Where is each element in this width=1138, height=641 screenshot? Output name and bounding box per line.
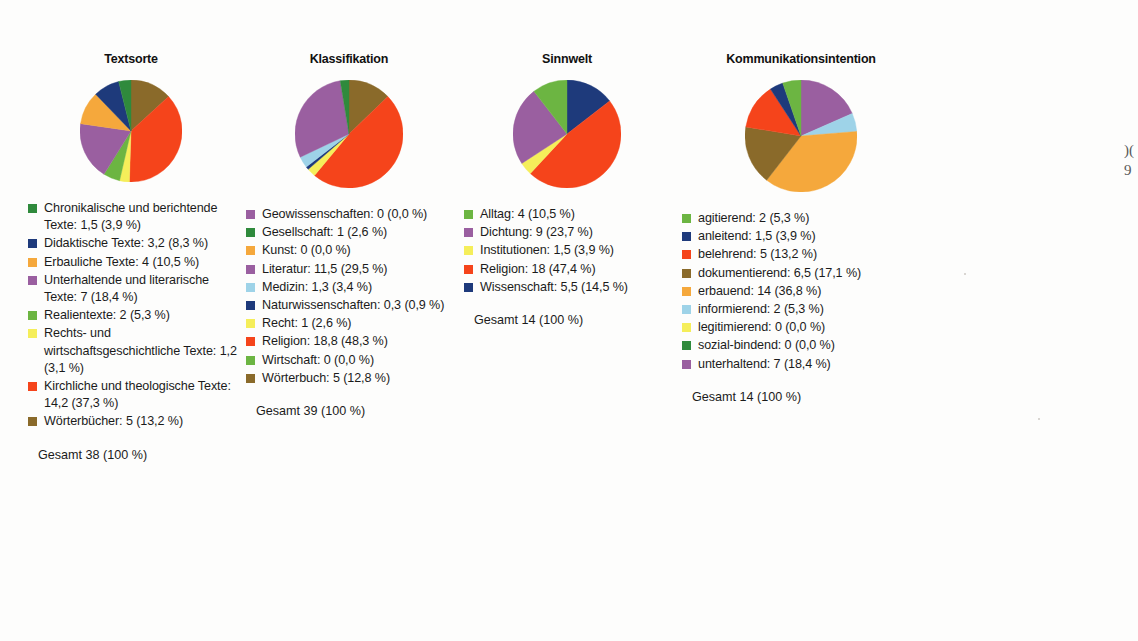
legend-item: dokumentierend: 6,5 (17,1 %)	[682, 265, 926, 282]
legend-color-swatch	[246, 319, 255, 328]
legend-item: Wörterbuch: 5 (12,8 %)	[246, 370, 458, 387]
pie-svg	[745, 80, 857, 192]
legend-item: Naturwissenschaften: 0,3 (0,9 %)	[246, 297, 458, 314]
chart-title: Textsorte	[22, 52, 240, 66]
legend-color-swatch	[682, 287, 691, 296]
legend-item: anleitend: 1,5 (3,9 %)	[682, 228, 926, 245]
margin-note-line-2: 9	[1124, 160, 1134, 180]
pie-svg	[295, 80, 403, 188]
legend-label: Literatur: 11,5 (29,5 %)	[262, 261, 387, 278]
legend-item: Recht: 1 (2,6 %)	[246, 315, 458, 332]
margin-note: )( 9	[1124, 140, 1134, 180]
legend-item: Religion: 18,8 (48,3 %)	[246, 333, 458, 350]
pie-panel-klassifikation: Klassifikation Geowissenschaften: 0 (0,0…	[240, 0, 458, 420]
pie-svg	[80, 80, 182, 182]
legend-color-swatch	[682, 323, 691, 332]
legend-label: Erbauliche Texte: 4 (10,5 %)	[44, 254, 199, 271]
legend-color-swatch	[464, 228, 473, 237]
scan-speck	[964, 273, 966, 275]
legend-label: Rechts- und wirtschaftsgeschichtliche Te…	[44, 325, 240, 377]
legend-label: Geowissenschaften: 0 (0,0 %)	[262, 206, 427, 223]
legend-item: Realientexte: 2 (5,3 %)	[28, 307, 240, 324]
pie-panel-kommunikationsintention: Kommunikationsintention agitierend: 2 (5…	[676, 0, 926, 406]
pie-svg	[513, 80, 621, 188]
legend-label: agitierend: 2 (5,3 %)	[698, 210, 809, 227]
legend-label: Institutionen: 1,5 (3,9 %)	[480, 242, 614, 259]
legend-item: Rechts- und wirtschaftsgeschichtliche Te…	[28, 325, 240, 377]
legend-label: Gesellschaft: 1 (2,6 %)	[262, 224, 387, 241]
pie-chart-sinnwelt	[458, 80, 676, 188]
legend-item: sozial-bindend: 0 (0,0 %)	[682, 337, 926, 354]
legend-label: Dichtung: 9 (23,7 %)	[480, 224, 593, 241]
pie-panel-sinnwelt: Sinnwelt Alltag: 4 (10,5 %)Dichtung: 9 (…	[458, 0, 676, 329]
legend-item: Institutionen: 1,5 (3,9 %)	[464, 242, 676, 259]
legend-color-swatch	[28, 417, 37, 426]
legend-label: Kirchliche und theologische Texte: 14,2 …	[44, 378, 240, 412]
legend-color-swatch	[246, 374, 255, 383]
legend-label: Alltag: 4 (10,5 %)	[480, 206, 575, 223]
pie-chart-textsorte	[22, 80, 240, 182]
legend-color-swatch	[28, 311, 37, 320]
legend-item: Wirtschaft: 0 (0,0 %)	[246, 352, 458, 369]
legend-label: Didaktische Texte: 3,2 (8,3 %)	[44, 235, 208, 252]
legend-label: Wörterbücher: 5 (13,2 %)	[44, 413, 183, 430]
legend-item: Dichtung: 9 (23,7 %)	[464, 224, 676, 241]
legend-color-swatch	[464, 210, 473, 219]
legend-label: informierend: 2 (5,3 %)	[698, 301, 824, 318]
legend-item: Gesellschaft: 1 (2,6 %)	[246, 224, 458, 241]
total-label: Gesamt 38 (100 %)	[38, 447, 240, 464]
legend-item: Kunst: 0 (0,0 %)	[246, 242, 458, 259]
legend-item: Wissenschaft: 5,5 (14,5 %)	[464, 279, 676, 296]
legend-label: belehrend: 5 (13,2 %)	[698, 246, 817, 263]
scan-speck	[1038, 418, 1040, 420]
legend-color-swatch	[28, 204, 37, 213]
pie-chart-klassifikation	[240, 80, 458, 188]
legend-label: Religion: 18,8 (48,3 %)	[262, 333, 388, 350]
legend-item: Alltag: 4 (10,5 %)	[464, 206, 676, 223]
legend-color-swatch	[464, 265, 473, 274]
legend-item: legitimierend: 0 (0,0 %)	[682, 319, 926, 336]
legend-label: anleitend: 1,5 (3,9 %)	[698, 228, 816, 245]
legend-item: erbauend: 14 (36,8 %)	[682, 283, 926, 300]
legend-color-swatch	[28, 329, 37, 338]
legend-label: Kunst: 0 (0,0 %)	[262, 242, 351, 259]
legend-color-swatch	[464, 283, 473, 292]
legend-kommunikationsintention: agitierend: 2 (5,3 %)anleitend: 1,5 (3,9…	[676, 210, 926, 373]
legend-label: dokumentierend: 6,5 (17,1 %)	[698, 265, 861, 282]
legend-color-swatch	[28, 239, 37, 248]
legend-item: informierend: 2 (5,3 %)	[682, 301, 926, 318]
legend-label: Wissenschaft: 5,5 (14,5 %)	[480, 279, 628, 296]
legend-label: unterhaltend: 7 (18,4 %)	[698, 356, 831, 373]
legend-color-swatch	[246, 337, 255, 346]
legend-color-swatch	[28, 276, 37, 285]
legend-color-swatch	[464, 246, 473, 255]
pie-panel-textsorte: Textsorte Chronikalische und berichtende…	[22, 0, 240, 464]
legend-item: Didaktische Texte: 3,2 (8,3 %)	[28, 235, 240, 252]
legend-item: Chronikalische und berichtende Texte: 1,…	[28, 200, 240, 234]
legend-item: Erbauliche Texte: 4 (10,5 %)	[28, 254, 240, 271]
legend-color-swatch	[682, 250, 691, 259]
legend-item: belehrend: 5 (13,2 %)	[682, 246, 926, 263]
legend-label: Chronikalische und berichtende Texte: 1,…	[44, 200, 240, 234]
legend-label: Recht: 1 (2,6 %)	[262, 315, 351, 332]
legend-label: Realientexte: 2 (5,3 %)	[44, 307, 170, 324]
legend-item: unterhaltend: 7 (18,4 %)	[682, 356, 926, 373]
legend-color-swatch	[246, 210, 255, 219]
chart-title: Klassifikation	[240, 52, 458, 66]
legend-item: Literatur: 11,5 (29,5 %)	[246, 261, 458, 278]
legend-color-swatch	[682, 341, 691, 350]
legend-textsorte: Chronikalische und berichtende Texte: 1,…	[22, 200, 240, 431]
total-label: Gesamt 14 (100 %)	[692, 389, 926, 406]
legend-color-swatch	[682, 269, 691, 278]
legend-item: Medizin: 1,3 (3,4 %)	[246, 279, 458, 296]
pie-chart-kommunikationsintention	[676, 80, 926, 192]
legend-klassifikation: Geowissenschaften: 0 (0,0 %)Gesellschaft…	[240, 206, 458, 387]
margin-note-line-1: )(	[1124, 140, 1134, 160]
legend-label: Medizin: 1,3 (3,4 %)	[262, 279, 372, 296]
total-label: Gesamt 14 (100 %)	[474, 312, 676, 329]
legend-color-swatch	[246, 301, 255, 310]
legend-color-swatch	[682, 232, 691, 241]
legend-label: Wirtschaft: 0 (0,0 %)	[262, 352, 374, 369]
legend-color-swatch	[682, 360, 691, 369]
legend-item: Religion: 18 (47,4 %)	[464, 261, 676, 278]
